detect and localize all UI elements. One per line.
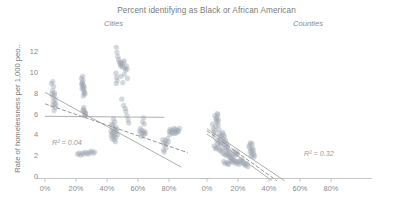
data-point — [177, 126, 182, 131]
data-point — [216, 117, 221, 122]
x-tick-label-cities-3: 60% — [131, 184, 146, 193]
axis-labels-layer: 0%20%40%60%80%0%20%40%60%80%024681012 — [30, 47, 339, 193]
data-point — [81, 93, 86, 98]
data-point — [115, 132, 120, 137]
y-tick-label-5: 10 — [30, 68, 38, 77]
x-tick-label-cities-0: 0% — [40, 184, 51, 193]
data-point — [80, 74, 85, 79]
data-point — [142, 121, 147, 126]
data-point — [215, 112, 220, 117]
data-point — [221, 159, 226, 164]
y-tick-label-1: 2 — [34, 151, 38, 160]
y-tick-label-3: 6 — [34, 110, 38, 119]
data-point — [92, 150, 97, 155]
data-point — [251, 147, 256, 152]
data-point — [141, 115, 146, 120]
data-point — [52, 90, 57, 95]
data-point — [167, 132, 172, 137]
data-point — [125, 76, 130, 81]
data-point — [173, 131, 178, 136]
data-point — [49, 81, 54, 86]
data-point — [126, 120, 131, 125]
y-tick-label-0: 0 — [34, 172, 38, 181]
data-point — [79, 82, 84, 87]
data-point — [113, 139, 118, 144]
data-points-layer — [49, 45, 257, 170]
x-tick-label-counties-1: 20% — [231, 184, 246, 193]
data-point — [50, 103, 55, 108]
axes-layer — [37, 179, 372, 183]
trendline-lower-solid — [207, 134, 272, 181]
data-point — [143, 131, 148, 136]
y-tick-label-4: 8 — [34, 89, 38, 98]
data-point — [125, 66, 130, 71]
r-squared-annotation-cities: R² = 0.04 — [52, 138, 82, 147]
data-point — [121, 58, 126, 63]
x-tick-label-counties-4: 80% — [324, 184, 339, 193]
trendline-middle-dashed — [207, 131, 277, 181]
y-tick-label-6: 12 — [30, 47, 38, 56]
x-tick-label-cities-1: 20% — [69, 184, 84, 193]
x-tick-label-cities-2: 40% — [100, 184, 115, 193]
data-point — [119, 97, 124, 102]
r-squared-annotation-counties: R² = 0.32 — [304, 149, 334, 158]
data-point — [120, 80, 125, 85]
chart-figure: Percent identifying as Black or African … — [0, 0, 413, 209]
x-tick-label-cities-4: 80% — [162, 184, 177, 193]
x-tick-label-counties-2: 40% — [262, 184, 277, 193]
data-point — [250, 141, 255, 146]
data-point — [122, 72, 127, 77]
data-point — [115, 78, 120, 83]
y-tick-label-2: 4 — [34, 130, 38, 139]
data-point — [114, 45, 119, 50]
trendline-upper-solid — [45, 92, 181, 167]
scatter-plot-canvas: 0%20%40%60%80%0%20%40%60%80%024681012 R²… — [0, 0, 413, 209]
x-tick-label-counties-3: 60% — [293, 184, 308, 193]
data-point — [166, 139, 171, 144]
trendline-lower-solid — [45, 116, 164, 117]
trendline-upper-solid — [207, 129, 285, 181]
x-tick-label-counties-0: 0% — [202, 184, 213, 193]
data-point — [52, 108, 57, 113]
